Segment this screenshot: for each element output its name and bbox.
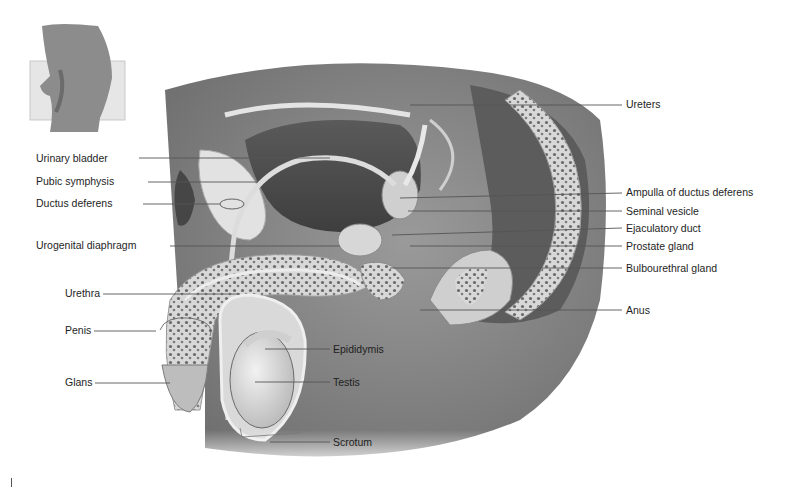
label-ejaculatory-duct: Ejaculatory duct — [626, 222, 701, 234]
label-ampulla-of-ductus-deferens: Ampulla of ductus deferens — [626, 186, 753, 198]
label-penis: Penis — [65, 324, 91, 336]
page-edge-mark — [11, 478, 12, 487]
label-scrotum: Scrotum — [333, 436, 372, 448]
label-bulbourethral-gland: Bulbourethral gland — [626, 262, 717, 274]
pelvis-section — [160, 63, 620, 470]
label-testis: Testis — [333, 376, 360, 388]
label-ureters: Ureters — [626, 98, 660, 110]
label-anus: Anus — [626, 304, 650, 316]
label-glans: Glans — [65, 376, 92, 388]
label-ductus-deferens: Ductus deferens — [36, 197, 112, 209]
label-urinary-bladder: Urinary bladder — [36, 152, 108, 164]
orientation-inset — [30, 24, 125, 132]
label-urethra: Urethra — [65, 287, 100, 299]
label-epididymis: Epididymis — [333, 343, 384, 355]
label-seminal-vesicle: Seminal vesicle — [626, 205, 699, 217]
label-urogenital-diaphragm: Urogenital diaphragm — [36, 239, 136, 251]
anatomy-figure: Urinary bladder Pubic symphysis Ductus d… — [0, 0, 785, 489]
label-pubic-symphysis: Pubic symphysis — [36, 175, 114, 187]
label-prostate-gland: Prostate gland — [626, 240, 694, 252]
